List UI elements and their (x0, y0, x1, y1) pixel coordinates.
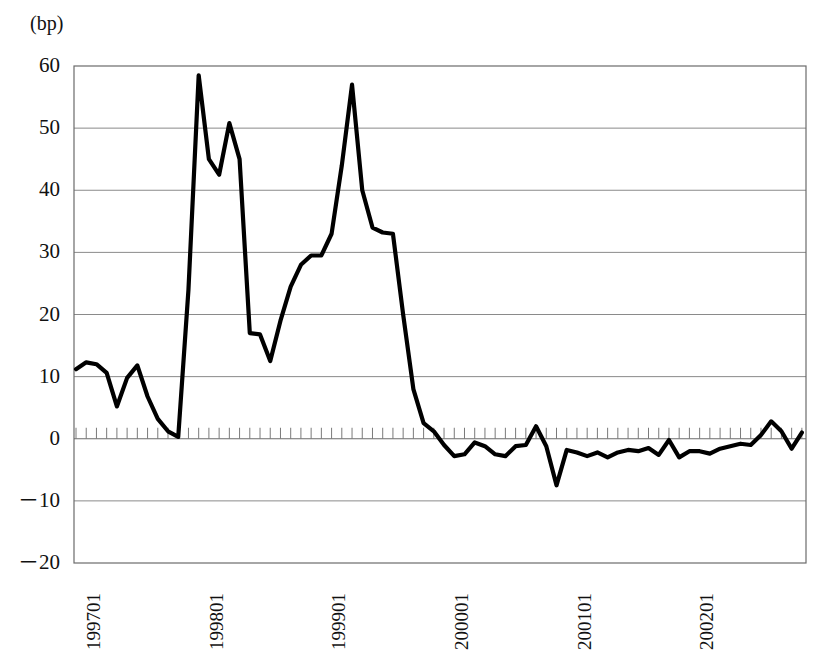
chart-container: (bp) 6050403020100－10－20 199701199801199… (0, 0, 826, 670)
data-series-line (76, 75, 802, 485)
gridlines (74, 128, 806, 501)
chart-plot-svg (0, 0, 826, 670)
